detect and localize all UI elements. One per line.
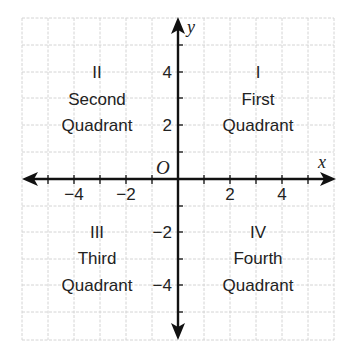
quadrant-numeral: II <box>92 63 101 82</box>
quadrant-numeral: I <box>256 63 261 82</box>
quadrant-word: Quadrant <box>62 276 133 295</box>
y-tick-label: 4 <box>163 63 172 82</box>
quadrant-word: Quadrant <box>223 116 294 135</box>
quadrant-name: Second <box>68 90 126 109</box>
quadrant-name: Third <box>78 249 117 268</box>
y-tick-label: −4 <box>153 276 172 295</box>
quadrant-word: Quadrant <box>62 116 133 135</box>
y-tick-label: −2 <box>153 223 172 242</box>
quadrant-i-label: I First Quadrant <box>223 63 294 135</box>
quadrant-numeral: IV <box>250 223 267 242</box>
quadrant-ii-label: II Second Quadrant <box>62 63 133 135</box>
coordinate-plane: y x O −4 −2 2 4 4 2 −2 −4 I First Quadra… <box>0 0 347 353</box>
x-tick-label: −2 <box>116 185 135 204</box>
quadrant-word: Quadrant <box>223 276 294 295</box>
origin-label: O <box>156 157 170 178</box>
quadrant-numeral: III <box>90 223 104 242</box>
x-tick-label: −4 <box>64 185 83 204</box>
quadrant-name: Fourth <box>233 249 282 268</box>
x-tick-label: 4 <box>277 185 286 204</box>
y-axis-label: y <box>185 17 195 37</box>
y-tick-label: 2 <box>163 116 172 135</box>
x-axis-label: x <box>317 152 326 172</box>
x-tick-label: 2 <box>225 185 234 204</box>
quadrant-name: First <box>241 90 274 109</box>
